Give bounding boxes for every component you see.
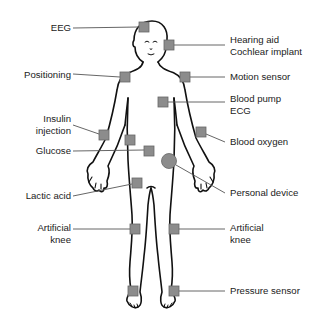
label-cochlear-implant: Cochlear implant [230,46,302,58]
label-blood-pump: Blood pump [230,93,281,105]
sensor-knee-right [169,224,179,234]
sensor-hearing-aid [164,40,174,50]
leader-line-blood-oxygen [206,134,225,142]
label-glucose: Glucose [36,145,71,157]
leader-line-insulin [73,125,99,134]
sensor-knee-left [130,224,140,234]
leader-line-positioning [73,74,120,77]
sensor-positioning [120,72,130,82]
leader-line-eeg [73,27,139,28]
sensor-blood-pump [158,97,168,107]
sensor-blood-oxygen [196,127,206,137]
label-artificial-left: Artificial [37,222,71,234]
leader-line-lactic-acid [73,184,132,196]
leader-line-glucose [73,150,144,151]
label-personal-device: Personal device [230,187,298,199]
label-knee-right: knee [230,234,251,246]
label-eeg: EEG [51,22,71,34]
sensor-insulin [99,130,109,140]
label-blood-oxygen: Blood oxygen [230,136,288,148]
sensor-personal-device [162,154,177,169]
sensor-foot-left [128,286,138,296]
label-injection: injection [36,125,71,137]
label-positioning: Positioning [24,69,71,81]
sensor-pressure [169,286,179,296]
label-knee-left: knee [50,234,71,246]
body-sensor-diagram: EEG Positioning Insulin injection Glucos… [0,0,329,323]
label-hearing-aid: Hearing aid [230,34,279,46]
label-insulin: Insulin [43,113,71,125]
sensor-lactic-acid [132,178,142,188]
human-body-outline [87,21,215,308]
label-artificial-right: Artificial [230,222,264,234]
label-pressure-sensor: Pressure sensor [230,285,300,297]
leader-lines [73,27,225,291]
sensor-motion [180,72,190,82]
sensor-torso [125,135,135,145]
label-ecg: ECG [230,105,251,117]
label-motion-sensor: Motion sensor [230,71,290,83]
sensor-eeg [139,22,149,32]
sensor-glucose [144,146,154,156]
label-lactic-acid: Lactic acid [26,190,71,202]
